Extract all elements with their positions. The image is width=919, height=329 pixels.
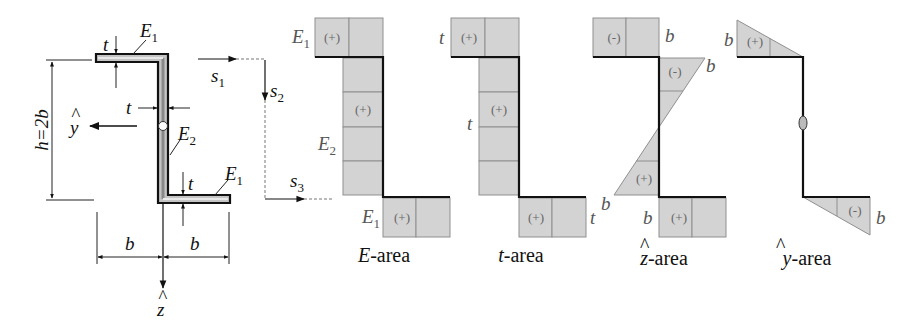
y-area-caption: y-area: [781, 247, 832, 270]
svg-text:(+): (+): [394, 210, 410, 225]
t-top-label: t: [103, 34, 109, 55]
t-area-caption: t-area: [498, 244, 544, 266]
svg-text:(+): (+): [528, 210, 544, 225]
E2-label: E2: [177, 123, 196, 148]
svg-text:(+): (+): [671, 210, 687, 225]
b-left-label: b: [125, 233, 135, 254]
t-bottom-label: t: [188, 173, 194, 194]
svg-text:(-): (-): [669, 64, 682, 79]
b-right-label: b: [190, 233, 200, 254]
z-area-bottom-label: b: [643, 207, 653, 228]
z-hat-accent: ^: [158, 286, 168, 307]
y-area-bottom-label: b: [876, 207, 886, 228]
s3-label: s3: [290, 170, 304, 195]
t-area-top-label: t: [439, 27, 445, 48]
height-label: h=2b: [31, 109, 52, 150]
E1-bottom-label: E1: [224, 163, 243, 188]
y-area-top-label: b: [724, 29, 734, 50]
svg-text:(+): (+): [491, 102, 507, 117]
svg-text:(+): (+): [636, 171, 652, 186]
y-hat-accent: ^: [71, 104, 81, 125]
svg-text:(-): (-): [608, 30, 621, 45]
t-web-label: t: [126, 97, 132, 118]
z-area-top-label: b: [665, 25, 675, 46]
z-area-hat: ^: [640, 234, 650, 256]
t-area-bottom-label: t: [590, 207, 596, 228]
z-area-web-top-label: b: [706, 55, 716, 76]
path-coordinates: s1 s2 s3: [198, 59, 332, 199]
e-area-bottom-label: E1: [361, 206, 380, 231]
E1-top-label: E1: [139, 20, 158, 45]
s1-label: s1: [211, 65, 225, 90]
y-area-hat: ^: [776, 234, 786, 256]
z-area-web-bottom-label: b: [601, 193, 611, 214]
e-area-diagram: (+) (+) (+) E1 E2 E1 E-area: [291, 18, 450, 266]
centroid-marker: [159, 122, 168, 131]
e-area-caption: E-area: [357, 244, 410, 266]
svg-text:(+): (+): [324, 30, 340, 45]
z-section-area-diagrams: h=2b t E1 t E2 t E1 y ^ z ^ b: [0, 0, 919, 329]
y-area-zero-marker: [799, 116, 807, 130]
svg-text:(-): (-): [849, 203, 862, 218]
svg-text:(+): (+): [461, 30, 477, 45]
s2-label: s2: [270, 80, 284, 105]
t-area-web-label: t: [467, 113, 473, 134]
svg-text:(+): (+): [747, 34, 763, 49]
e-area-top-label: E1: [291, 26, 310, 51]
svg-text:(+): (+): [355, 102, 371, 117]
y-hat-area-diagram: (+) (-) b b y-area ^: [724, 20, 886, 270]
z-hat-area-diagram: (-) (-) (+) (+) b b b b z-area ^: [593, 18, 726, 269]
e-area-web-label: E2: [317, 133, 336, 158]
t-area-diagram: (+) (+) (+) t t t t-area: [439, 18, 596, 266]
